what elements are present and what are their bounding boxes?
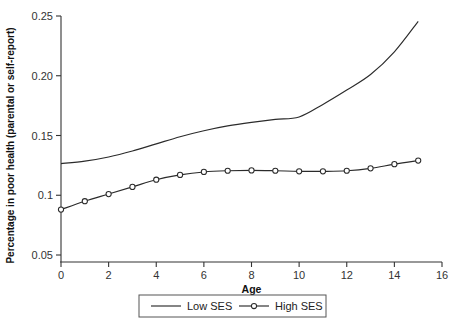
data-point-marker [416,158,421,163]
data-point-marker [320,169,325,174]
y-tick-label: 0.1 [38,189,53,201]
x-tick-label: 10 [293,269,305,281]
x-tick-label: 12 [341,269,353,281]
x-axis-title: Age [242,283,262,295]
data-point-marker [154,177,159,182]
scan-artifact-text [4,310,5,320]
legend-label: Low SES [187,300,232,312]
y-tick-label: 0.15 [32,130,53,142]
legend-label: High SES [275,300,323,312]
y-tick-label: 0.20 [32,70,53,82]
data-point-marker [177,172,182,177]
y-tick-label: 0.25 [32,10,53,22]
data-point-marker [392,162,397,167]
y-tick-label: 0.05 [32,249,53,261]
x-tick-label: 14 [388,269,400,281]
data-point-marker [106,191,111,196]
line-chart: 0.050.10.150.200.25 0246810121416 Age Pe… [0,0,460,322]
data-point-marker [273,168,278,173]
x-tick-label: 8 [248,269,254,281]
x-tick-label: 16 [436,269,448,281]
data-point-marker [344,168,349,173]
x-tick-label: 4 [153,269,159,281]
data-point-marker [368,166,373,171]
data-point-marker [82,199,87,204]
legend-marker-swatch [251,303,256,308]
data-point-marker [297,169,302,174]
data-point-marker [249,168,254,173]
x-tick-label: 6 [201,269,207,281]
y-axis-title: Percentage in poor health (parental or s… [5,27,16,263]
x-tick-label: 2 [106,269,112,281]
data-point-marker [225,168,230,173]
data-point-marker [201,169,206,174]
data-point-marker [130,184,135,189]
data-point-marker [58,207,63,212]
x-tick-label: 0 [58,269,64,281]
chart-figure: 0.050.10.150.200.25 0246810121416 Age Pe… [0,0,460,322]
